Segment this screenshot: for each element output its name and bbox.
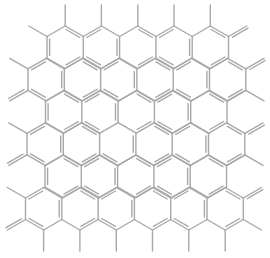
single-bond — [46, 58, 64, 69]
bond-layer — [26, 26, 246, 230]
single-bond — [134, 188, 152, 199]
single-bond — [45, 155, 63, 166]
single-bond — [190, 123, 208, 133]
single-bond — [45, 187, 63, 198]
single-bond — [190, 155, 208, 166]
single-bond — [118, 123, 136, 134]
single-bond — [100, 123, 118, 134]
methyl-bond — [243, 220, 261, 231]
single-bond — [118, 91, 136, 102]
methyl-bond — [29, 26, 47, 37]
single-bond — [191, 91, 209, 102]
single-bond — [207, 220, 225, 231]
single-bond — [47, 58, 65, 69]
methyl-bond — [245, 155, 263, 166]
single-bond — [191, 58, 209, 69]
single-bond — [116, 220, 134, 231]
single-bond — [116, 188, 134, 199]
single-bond — [207, 188, 225, 199]
methyl-bond — [9, 123, 27, 133]
single-bond — [101, 26, 119, 37]
single-bond — [44, 188, 62, 199]
single-bond — [44, 220, 62, 231]
methyl-bond — [10, 58, 28, 69]
single-bond — [62, 220, 80, 231]
single-bond — [119, 58, 137, 69]
substituent-layer — [6, 5, 265, 251]
methyl-bond — [7, 188, 25, 199]
single-bond — [47, 26, 65, 37]
single-bond — [120, 26, 138, 37]
methyl-bond — [246, 90, 264, 101]
chemical-structure-diagram — [0, 0, 270, 258]
single-bond — [192, 26, 210, 37]
single-bond — [190, 187, 208, 198]
single-bond — [118, 187, 136, 198]
single-bond — [45, 123, 63, 133]
single-bond — [62, 188, 80, 199]
single-bond — [118, 155, 136, 166]
single-bond — [46, 91, 64, 102]
single-bond — [134, 220, 152, 231]
single-bond — [189, 220, 207, 231]
single-bond — [189, 188, 207, 199]
single-bond — [174, 26, 192, 37]
